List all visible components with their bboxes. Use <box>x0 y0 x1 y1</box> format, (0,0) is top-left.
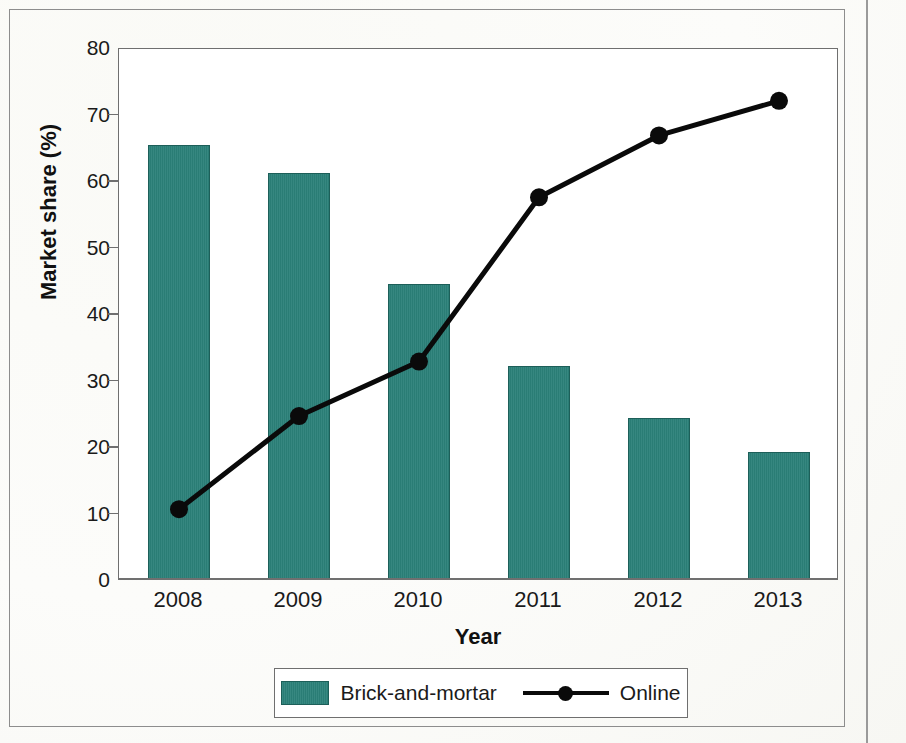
legend-label-online: Online <box>620 681 681 705</box>
page-edge-marks <box>872 545 902 735</box>
chart-legend: Brick-and-mortar Online <box>274 668 688 718</box>
x-axis-tick-label: 2008 <box>118 587 238 613</box>
data-point-marker <box>650 126 668 144</box>
data-point-marker <box>290 407 308 425</box>
data-point-marker <box>410 353 428 371</box>
combo-chart: Market share (%) 01020304050607080 20082… <box>9 9 845 727</box>
data-point-marker <box>530 188 548 206</box>
y-axis-tick-label: 80 <box>64 36 110 60</box>
y-axis-tick-label: 30 <box>64 369 110 393</box>
online-line-path <box>179 101 779 509</box>
line-series-online <box>119 49 837 579</box>
data-point-marker <box>770 92 788 110</box>
scanned-page: Market share (%) 01020304050607080 20082… <box>0 0 906 743</box>
x-axis-tick-label: 2011 <box>478 587 598 613</box>
y-axis-tick-label: 0 <box>64 568 110 592</box>
y-axis-tick-label: 70 <box>64 103 110 127</box>
x-axis-tick-label: 2010 <box>358 587 478 613</box>
y-axis-tick-label: 60 <box>64 169 110 193</box>
y-axis-tick-labels: 01020304050607080 <box>54 48 110 580</box>
y-axis-tick-label: 10 <box>64 502 110 526</box>
x-axis-tick-label: 2012 <box>598 587 718 613</box>
x-axis-title: Year <box>118 624 838 650</box>
legend-item-brick-and-mortar: Brick-and-mortar <box>281 681 496 705</box>
plot-area <box>118 48 838 580</box>
y-axis-tick-label: 40 <box>64 302 110 326</box>
x-axis-tick-label: 2013 <box>718 587 838 613</box>
legend-swatch-icon <box>281 681 329 705</box>
x-axis-tick-labels: 200820092010201120122013 <box>118 587 838 621</box>
data-point-marker <box>170 500 188 518</box>
legend-label-brick-and-mortar: Brick-and-mortar <box>340 681 496 705</box>
legend-item-online: Online <box>523 681 681 705</box>
x-axis-tick-label: 2009 <box>238 587 358 613</box>
y-axis-tick-label: 20 <box>64 435 110 459</box>
y-axis-tick-label: 50 <box>64 236 110 260</box>
page-edge-line <box>866 0 868 743</box>
legend-line-dot-icon <box>523 683 609 703</box>
online-line-svg <box>119 49 839 581</box>
